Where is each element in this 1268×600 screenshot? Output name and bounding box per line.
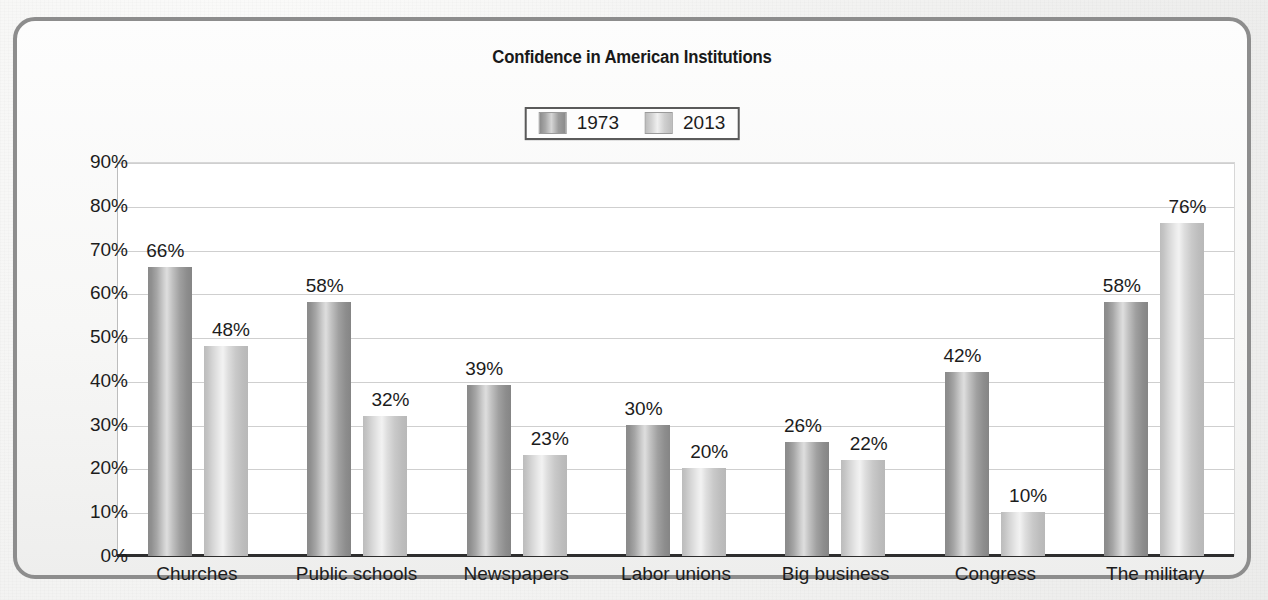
y-axis-tick-label: 0% bbox=[38, 545, 128, 567]
bar-fill bbox=[945, 372, 989, 556]
bar-value-label: 30% bbox=[625, 398, 663, 420]
legend-swatch-2013 bbox=[645, 112, 673, 134]
bar-fill bbox=[363, 416, 407, 556]
chart-legend: 1973 2013 bbox=[525, 107, 740, 140]
legend-item-2013[interactable]: 2013 bbox=[645, 112, 725, 134]
bar-value-label: 42% bbox=[943, 345, 981, 367]
legend-swatch-1973 bbox=[539, 112, 567, 134]
bar-group: 66%48% bbox=[118, 163, 277, 556]
bar-value-label: 58% bbox=[1103, 275, 1141, 297]
bar-fill bbox=[204, 346, 248, 556]
bar-value-label: 10% bbox=[1009, 485, 1047, 507]
y-axis-tick-label: 20% bbox=[38, 457, 128, 479]
legend-label-2013: 2013 bbox=[683, 112, 725, 134]
bar-value-label: 20% bbox=[690, 441, 728, 463]
bar-1973[interactable]: 30% bbox=[626, 425, 670, 556]
x-axis-category-label: The military bbox=[1075, 563, 1235, 585]
bar-fill bbox=[682, 468, 726, 556]
bar-1973[interactable]: 26% bbox=[785, 442, 829, 556]
bar-2013[interactable]: 76% bbox=[1160, 223, 1204, 556]
x-axis-category-label: Labor unions bbox=[596, 563, 756, 585]
bar-1973[interactable]: 42% bbox=[945, 372, 989, 556]
bar-fill bbox=[626, 425, 670, 556]
plot-background: 66%48%58%32%39%23%30%20%26%22%42%10%58%7… bbox=[117, 162, 1235, 556]
bar-value-label: 26% bbox=[784, 415, 822, 437]
bar-value-label: 39% bbox=[465, 358, 503, 380]
bar-fill bbox=[523, 455, 567, 556]
bar-value-label: 22% bbox=[850, 433, 888, 455]
bar-group: 58%76% bbox=[1075, 163, 1234, 556]
chart-page: Confidence in American Institutions 1973… bbox=[0, 0, 1268, 600]
y-axis-tick-label: 50% bbox=[38, 326, 128, 348]
x-axis-category-label: Congress bbox=[916, 563, 1076, 585]
bar-group: 42%10% bbox=[915, 163, 1074, 556]
y-axis-tick-label: 40% bbox=[38, 370, 128, 392]
bar-value-label: 23% bbox=[531, 428, 569, 450]
bar-2013[interactable]: 48% bbox=[204, 346, 248, 556]
bar-fill bbox=[467, 385, 511, 556]
bar-1973[interactable]: 66% bbox=[148, 267, 192, 556]
bar-fill bbox=[785, 442, 829, 556]
bar-1973[interactable]: 39% bbox=[467, 385, 511, 556]
x-axis-category-label: Newspapers bbox=[436, 563, 596, 585]
x-axis-category-label: Churches bbox=[117, 563, 277, 585]
bar-group: 26%22% bbox=[756, 163, 915, 556]
y-axis-tick-label: 30% bbox=[38, 414, 128, 436]
bar-groups: 66%48%58%32%39%23%30%20%26%22%42%10%58%7… bbox=[118, 163, 1234, 556]
bar-2013[interactable]: 22% bbox=[841, 460, 885, 556]
bar-fill bbox=[841, 460, 885, 556]
bar-2013[interactable]: 23% bbox=[523, 455, 567, 556]
plot-area: 66%48%58%32%39%23%30%20%26%22%42%10%58%7… bbox=[117, 162, 1235, 556]
bar-2013[interactable]: 32% bbox=[363, 416, 407, 556]
legend-item-1973[interactable]: 1973 bbox=[539, 112, 619, 134]
chart-title: Confidence in American Institutions bbox=[60, 47, 1204, 68]
chart-frame: Confidence in American Institutions 1973… bbox=[13, 17, 1251, 579]
y-axis-tick-label: 60% bbox=[38, 282, 128, 304]
bar-2013[interactable]: 20% bbox=[682, 468, 726, 556]
bar-1973[interactable]: 58% bbox=[1104, 302, 1148, 556]
y-axis-tick-label: 10% bbox=[38, 501, 128, 523]
legend-label-1973: 1973 bbox=[577, 112, 619, 134]
bar-fill bbox=[148, 267, 192, 556]
bar-value-label: 76% bbox=[1168, 196, 1206, 218]
x-axis-category-label: Big business bbox=[756, 563, 916, 585]
bar-value-label: 32% bbox=[371, 389, 409, 411]
bar-fill bbox=[1001, 512, 1045, 556]
bar-group: 58%32% bbox=[277, 163, 436, 556]
bar-group: 30%20% bbox=[596, 163, 755, 556]
bar-value-label: 58% bbox=[306, 275, 344, 297]
bar-fill bbox=[1104, 302, 1148, 556]
bar-value-label: 48% bbox=[212, 319, 250, 341]
bar-1973[interactable]: 58% bbox=[307, 302, 351, 556]
y-axis-tick-label: 90% bbox=[38, 151, 128, 173]
bar-fill bbox=[1160, 223, 1204, 556]
y-axis-tick-label: 80% bbox=[38, 195, 128, 217]
bar-value-label: 66% bbox=[146, 240, 184, 262]
bar-group: 39%23% bbox=[437, 163, 596, 556]
x-axis-labels: ChurchesPublic schoolsNewspapersLabor un… bbox=[117, 563, 1235, 585]
bar-2013[interactable]: 10% bbox=[1001, 512, 1045, 556]
x-axis-category-label: Public schools bbox=[277, 563, 437, 585]
y-axis-tick-label: 70% bbox=[38, 239, 128, 261]
bar-fill bbox=[307, 302, 351, 556]
